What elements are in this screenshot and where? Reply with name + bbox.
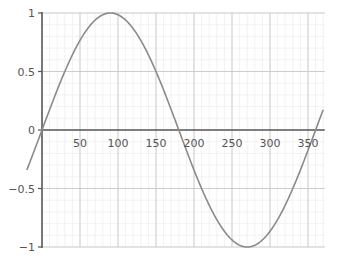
x-tick-label: 50 bbox=[73, 137, 87, 150]
x-tick-label: 250 bbox=[222, 137, 243, 150]
sine-chart: 10.50−0.5−150100150200250300350 bbox=[0, 0, 342, 260]
y-tick-label: 0.5 bbox=[18, 66, 36, 79]
x-tick-label: 200 bbox=[184, 137, 205, 150]
y-tick-label: −1 bbox=[19, 241, 35, 254]
y-tick-label: 0 bbox=[28, 124, 35, 137]
y-tick-label: −0.5 bbox=[8, 183, 35, 196]
x-tick-label: 350 bbox=[298, 137, 319, 150]
x-tick-label: 100 bbox=[108, 137, 129, 150]
x-tick-label: 150 bbox=[146, 137, 167, 150]
y-tick-label: 1 bbox=[28, 7, 35, 20]
x-tick-label: 300 bbox=[260, 137, 281, 150]
